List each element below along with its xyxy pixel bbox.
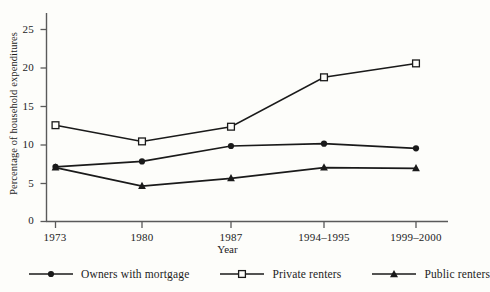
filled-circle-icon — [28, 268, 74, 280]
open-square-icon — [219, 268, 265, 280]
y-tick-label-5: 5 — [8, 177, 34, 189]
y-tick-label-25: 25 — [8, 23, 34, 35]
y-tick-label-20: 20 — [8, 61, 34, 73]
x-tick-label-1999-2000: 1999–2000 — [390, 231, 441, 243]
y-tick-label-10: 10 — [8, 138, 34, 150]
legend-label-owners-with-mortgage: Owners with mortgage — [81, 268, 189, 280]
series-line-public-renters — [56, 168, 417, 187]
x-tick-label-1987: 1987 — [220, 231, 243, 243]
x-tick-marks — [56, 222, 417, 229]
filled-triangle-icon — [371, 268, 417, 280]
y-tick-label-0: 0 — [8, 214, 34, 226]
legend-label-public-renters: Public renters — [424, 268, 490, 280]
x-tick-label-1973: 1973 — [44, 231, 67, 243]
legend-item-public-renters: Public renters — [371, 268, 490, 280]
y-tick-label-15: 15 — [8, 100, 34, 112]
legend-item-private-renters: Private renters — [219, 268, 341, 280]
y-tick-marks — [41, 30, 47, 222]
x-axis-title: Year — [0, 243, 455, 255]
legend-item-owners-with-mortgage: Owners with mortgage — [28, 268, 189, 280]
x-tick-label-1994-1995: 1994–1995 — [298, 231, 349, 243]
series-markers-private-renters — [52, 60, 419, 145]
legend: Owners with mortgage Private renters Pub… — [0, 262, 455, 286]
series-line-private-renters — [56, 63, 417, 141]
series-line-owners-with-mortgage — [56, 144, 417, 167]
legend-label-private-renters: Private renters — [272, 268, 341, 280]
x-tick-label-1980: 1980 — [131, 231, 154, 243]
